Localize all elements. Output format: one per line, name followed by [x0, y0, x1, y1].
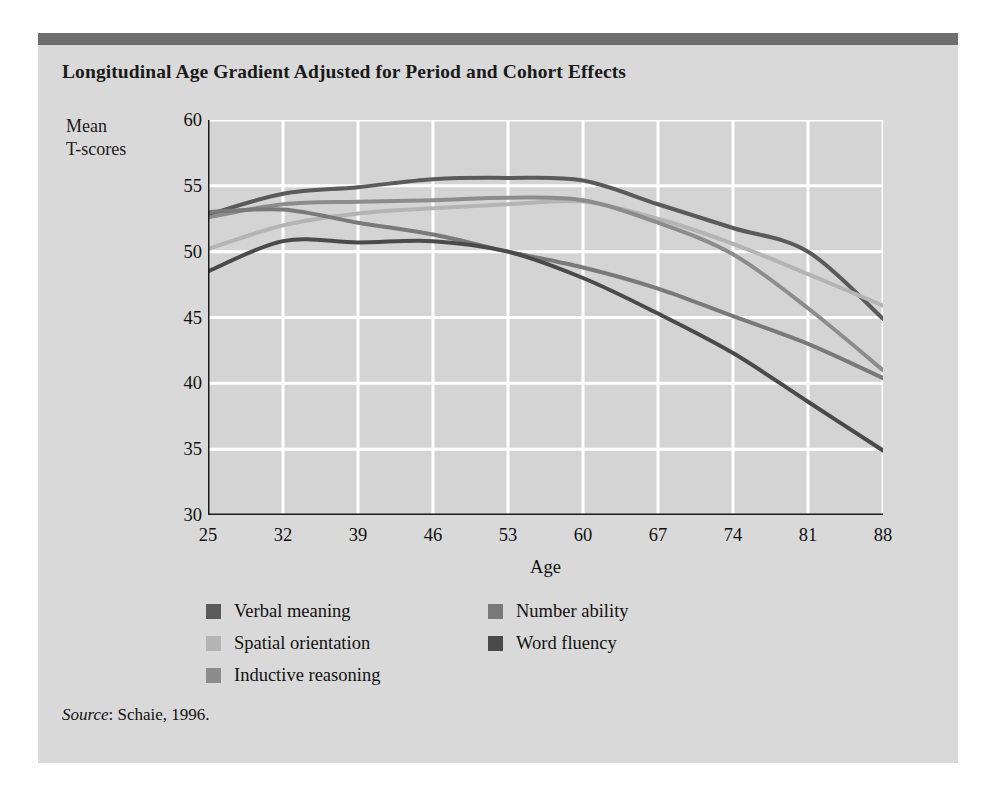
x-tick-label: 60	[561, 525, 605, 546]
legend-item[interactable]: Number ability	[488, 597, 629, 626]
legend-item[interactable]: Spatial orientation	[206, 629, 380, 658]
x-tick-label: 74	[711, 525, 755, 546]
legend-item-label: Spatial orientation	[234, 633, 370, 654]
legend-swatch-icon	[206, 636, 221, 651]
y-tick-label: 60	[162, 110, 202, 131]
y-axis-tick-labels: 30354045505560	[156, 120, 202, 515]
source-text: : Schaie, 1996.	[109, 705, 210, 724]
series-line	[208, 209, 883, 378]
x-axis-title: Age	[208, 557, 883, 578]
legend-item-label: Number ability	[516, 601, 629, 622]
source-label: Source	[62, 705, 109, 724]
x-tick-label: 46	[411, 525, 455, 546]
y-axis-title-line-2: T-scores	[66, 138, 126, 161]
x-tick-label: 88	[861, 525, 905, 546]
legend-swatch-icon	[206, 668, 221, 683]
legend-item-label: Verbal meaning	[234, 601, 351, 622]
legend-item[interactable]: Verbal meaning	[206, 597, 380, 626]
plot-area	[208, 120, 883, 515]
legend-item[interactable]: Word fluency	[488, 629, 629, 658]
y-tick-label: 45	[162, 307, 202, 328]
y-tick-label: 55	[162, 175, 202, 196]
x-tick-label: 25	[186, 525, 230, 546]
line-chart-svg	[208, 120, 883, 515]
y-tick-label: 50	[162, 241, 202, 262]
y-tick-label: 35	[162, 439, 202, 460]
x-tick-label: 53	[486, 525, 530, 546]
y-tick-label: 40	[162, 373, 202, 394]
legend-column-right: Number abilityWord fluency	[488, 597, 629, 661]
legend-swatch-icon	[488, 636, 503, 651]
legend-swatch-icon	[206, 604, 221, 619]
legend-item[interactable]: Inductive reasoning	[206, 661, 380, 690]
figure-panel: Longitudinal Age Gradient Adjusted for P…	[38, 33, 958, 763]
legend-item-label: Word fluency	[516, 633, 617, 654]
legend-swatch-icon	[488, 604, 503, 619]
legend-column-left: Verbal meaningSpatial orientationInducti…	[206, 597, 380, 693]
x-tick-label: 67	[636, 525, 680, 546]
series-line	[208, 197, 883, 370]
x-tick-label: 39	[336, 525, 380, 546]
x-tick-label: 32	[261, 525, 305, 546]
y-tick-label: 30	[162, 505, 202, 526]
series-line	[208, 239, 883, 450]
source-note: Source: Schaie, 1996.	[62, 705, 210, 725]
x-tick-label: 81	[786, 525, 830, 546]
figure-top-rule	[38, 33, 958, 45]
y-axis-title-line-1: Mean	[66, 115, 126, 138]
x-axis-tick-labels: 25323946536067748188	[208, 525, 883, 551]
y-axis-title: Mean T-scores	[66, 115, 126, 161]
chart-title: Longitudinal Age Gradient Adjusted for P…	[62, 61, 626, 83]
legend-item-label: Inductive reasoning	[234, 665, 380, 686]
